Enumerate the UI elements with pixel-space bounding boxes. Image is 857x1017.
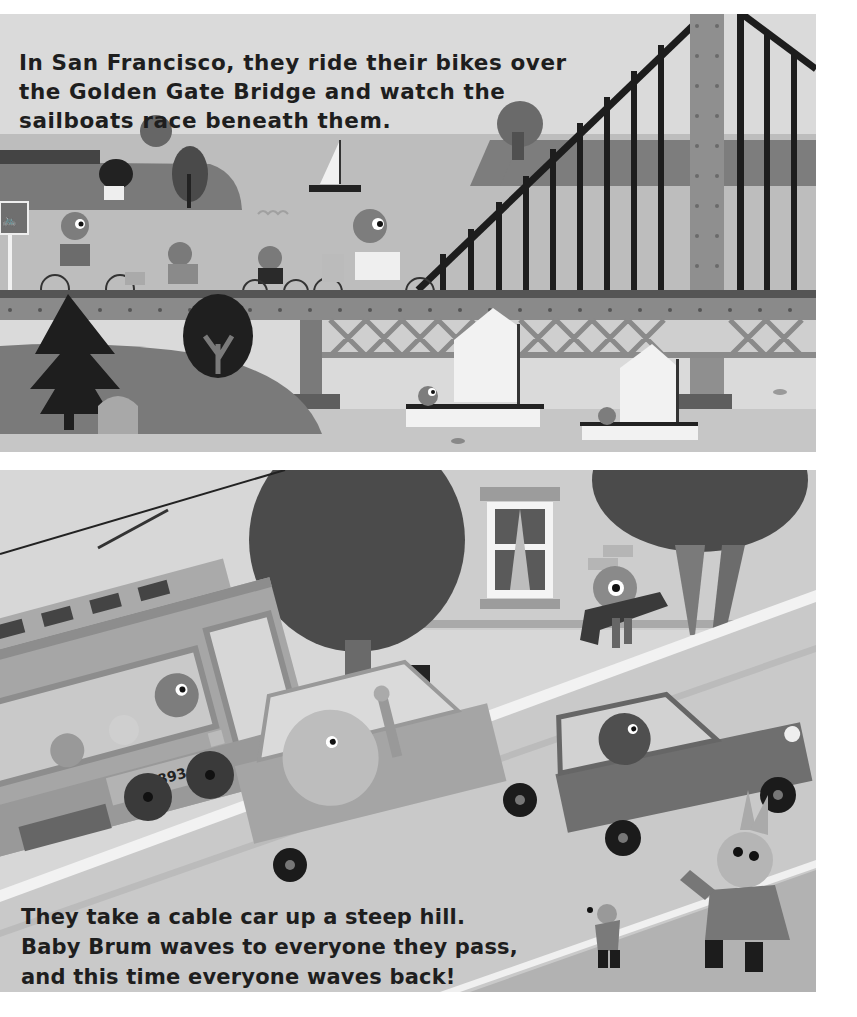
bottom-caption: They take a cable car up a steep hill. B… — [21, 902, 518, 992]
top-caption-line-3: sailboats race beneath them. — [19, 106, 567, 135]
top-illustration-panel: 🚲 — [0, 14, 816, 452]
bottom-caption-line-3: and this time everyone waves back! — [21, 962, 518, 992]
top-caption: In San Francisco, they ride their bikes … — [19, 48, 567, 135]
bottom-illustration-panel: 1893 — [0, 470, 816, 992]
top-caption-line-2: the Golden Gate Bridge and watch the — [19, 77, 567, 106]
top-caption-line-1: In San Francisco, they ride their bikes … — [19, 48, 567, 77]
bottom-caption-line-1: They take a cable car up a steep hill. — [21, 902, 518, 932]
bottom-caption-line-2: Baby Brum waves to everyone they pass, — [21, 932, 518, 962]
svg-text:🚲: 🚲 — [2, 213, 17, 227]
